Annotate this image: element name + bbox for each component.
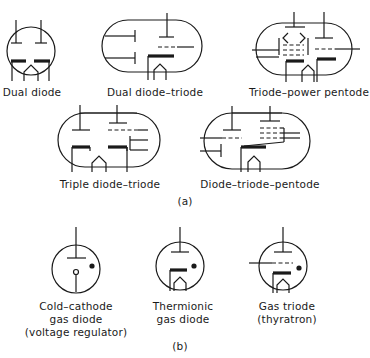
label-gas-triode-thyratron: Gas triode (thyratron) [244,300,330,326]
label-line-2: (thyratron) [244,313,330,326]
label-dual-diode: Dual diode [0,86,64,99]
dual-diode-symbol [7,20,55,81]
part-a-label: (a) [160,195,210,208]
label-dual-diode-triode: Dual diode–triode [100,86,210,99]
label-line-2: gas diode [18,313,134,326]
label-line-2: gas diode [140,313,226,326]
label-line-1: Gas triode [244,300,330,313]
triple-diode-triode-symbol [58,105,160,172]
part-b-label: (b) [155,340,205,353]
dual-diode-triode-symbol [102,13,202,80]
label-diode-triode-pentode: Diode–triode–pentode [195,178,325,191]
triode-power-pentode-symbol [252,12,360,82]
cold-cathode-gas-diode-symbol [52,227,100,293]
gas-triode-thyratron-symbol [249,227,307,293]
label-cold-cathode-gas-diode: Cold–cathode gas diode (voltage regulato… [18,300,134,339]
diode-triode-pentode-symbol [200,106,310,172]
thermionic-gas-diode-symbol [156,227,204,291]
label-line-1: Cold–cathode [18,300,134,313]
label-thermionic-gas-diode: Thermionic gas diode [140,300,226,326]
label-line-1: Thermionic [140,300,226,313]
label-triode-power-pentode: Triode–power pentode [248,86,370,99]
label-triple-diode-triode: Triple diode–triode [50,178,170,191]
label-line-3: (voltage regulator) [18,326,134,339]
